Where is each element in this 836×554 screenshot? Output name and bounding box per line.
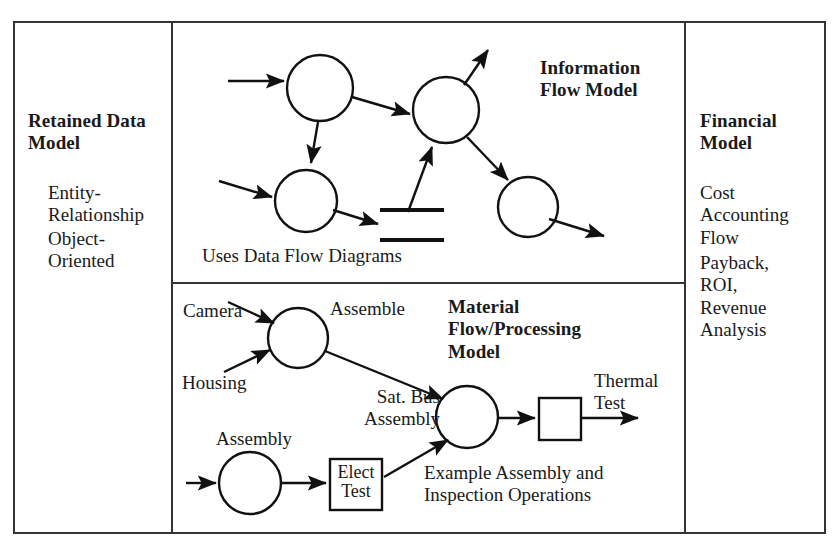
label-elect-test: Elect Test bbox=[330, 463, 382, 501]
arrow-node3-datastore bbox=[333, 210, 378, 224]
figure-canvas: Retained Data Model Entity- Relationship… bbox=[0, 0, 836, 554]
left-panel-title: Retained Data Model bbox=[28, 110, 146, 155]
arrow-in-node3 bbox=[219, 181, 272, 197]
label-camera: Camera bbox=[183, 300, 242, 322]
label-sat-bus-assembly: Sat. Bus Assembly bbox=[340, 386, 440, 431]
arrow-node2-out bbox=[464, 50, 488, 85]
info-node-3 bbox=[275, 170, 337, 232]
right-panel-item-1: Payback, ROI, Revenue Analysis bbox=[700, 252, 769, 342]
right-panel-item-0: Cost Accounting Flow bbox=[700, 182, 789, 249]
data-store-symbol bbox=[380, 210, 444, 240]
arrow-node1-node3 bbox=[311, 122, 318, 163]
left-panel-item-1: Object- Oriented bbox=[48, 228, 114, 273]
material-box-thermal-test bbox=[539, 398, 581, 440]
label-assembly: Assembly bbox=[216, 428, 292, 450]
info-node-4 bbox=[498, 177, 558, 237]
material-node-integrate bbox=[436, 386, 498, 448]
arrow-datastore-node2 bbox=[408, 147, 432, 212]
label-assemble: Assemble bbox=[330, 298, 405, 320]
material-node-assembly bbox=[219, 452, 281, 514]
information-flow-caption: Uses Data Flow Diagrams bbox=[202, 245, 402, 267]
left-panel-item-0: Entity- Relationship bbox=[48, 182, 144, 227]
arrow-node1-node2 bbox=[352, 97, 410, 114]
label-housing: Housing bbox=[182, 372, 246, 394]
right-panel-title: Financial Model bbox=[700, 110, 777, 155]
material-node-assemble bbox=[268, 308, 328, 368]
arrow-housing-assemble bbox=[224, 350, 270, 372]
info-node-1 bbox=[287, 55, 353, 121]
arrow-node2-node4 bbox=[467, 137, 508, 180]
information-flow-title: Information Flow Model bbox=[540, 57, 640, 102]
material-flow-title: Material Flow/Processing Model bbox=[448, 296, 581, 363]
label-thermal-test: Thermal Test bbox=[594, 370, 658, 415]
arrow-node4-out bbox=[549, 219, 604, 236]
material-flow-caption: Example Assembly and Inspection Operatio… bbox=[424, 462, 603, 507]
info-node-2 bbox=[413, 77, 479, 143]
